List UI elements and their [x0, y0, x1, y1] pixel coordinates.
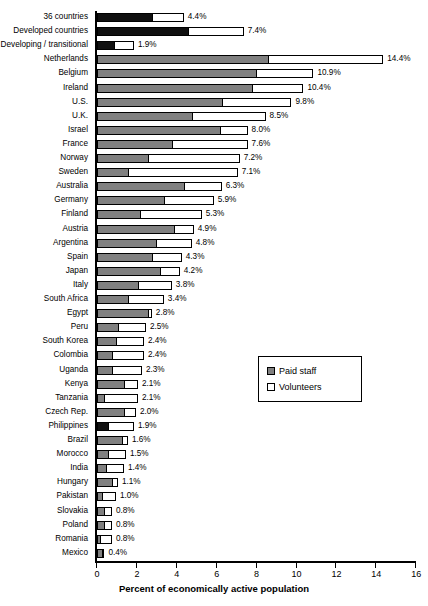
category-label: Egypt — [67, 308, 88, 318]
bar-segment-volunteers — [112, 478, 118, 487]
bar-segment-volunteers — [160, 267, 180, 276]
bar-value-label: 2.3% — [146, 365, 165, 375]
x-axis-tick — [415, 563, 416, 568]
x-axis-tick — [176, 563, 177, 568]
bar-segment-volunteers — [188, 27, 244, 36]
bar-value-label: 2.1% — [142, 379, 161, 389]
bar-segment-paid-staff — [97, 295, 129, 304]
bar-segment-paid-staff — [97, 27, 189, 36]
bar-segment-volunteers — [172, 140, 248, 149]
bar-segment-volunteers — [164, 196, 214, 205]
chart-row: Brazil1.6% — [0, 435, 428, 449]
bar-segment-volunteers — [222, 98, 292, 107]
legend-swatch-volunteers — [267, 383, 275, 391]
bar-segment-volunteers — [148, 154, 240, 163]
category-label: Sweden — [58, 167, 88, 177]
bar-segment-paid-staff — [97, 253, 153, 262]
category-label: South Korea — [42, 336, 88, 346]
category-label: Australia — [56, 181, 88, 191]
category-label: Pakistan — [57, 491, 88, 501]
chart-row: Finland5.3% — [0, 209, 428, 223]
chart-row: Netherlands14.4% — [0, 54, 428, 68]
bar-value-label: 7.4% — [248, 26, 267, 36]
bar-segment-volunteers — [116, 337, 144, 346]
category-label: Israel — [68, 125, 88, 135]
category-label: India — [70, 463, 88, 473]
x-axis-tick-label: 14 — [361, 569, 391, 579]
category-label: Belgium — [58, 68, 88, 78]
category-label: South Africa — [44, 294, 88, 304]
chart-row: Colombia2.4% — [0, 350, 428, 364]
bar-value-label: 4.4% — [188, 12, 207, 22]
bar-value-label: 7.2% — [244, 153, 263, 163]
legend-label-paid-staff: Paid staff — [279, 366, 316, 376]
bar-value-label: 7.6% — [252, 139, 271, 149]
category-label: France — [63, 139, 88, 149]
bar-segment-volunteers — [108, 450, 126, 459]
bar-value-label: 1.1% — [122, 477, 141, 487]
bar-segment-volunteers — [152, 13, 184, 22]
bar-value-label: 6.3% — [226, 181, 245, 191]
bar-segment-paid-staff — [97, 140, 173, 149]
chart-row: Japan4.2% — [0, 266, 428, 280]
chart-legend: Paid staff Volunteers — [258, 356, 362, 402]
bar-value-label: 8.5% — [270, 111, 289, 121]
bar-value-label: 1.9% — [138, 40, 157, 50]
x-axis-tick — [136, 563, 137, 568]
chart-row: Australia6.3% — [0, 181, 428, 195]
chart-row: Spain4.3% — [0, 252, 428, 266]
bar-segment-paid-staff — [97, 337, 117, 346]
chart-row: Pakistan1.0% — [0, 491, 428, 505]
bar-segment-paid-staff — [97, 281, 139, 290]
bar-value-label: 1.6% — [132, 435, 151, 445]
chart-row: U.S.9.8% — [0, 97, 428, 111]
bar-value-label: 0.8% — [116, 506, 135, 516]
x-axis-tick — [96, 563, 97, 568]
bar-value-label: 1.0% — [120, 491, 139, 501]
category-label: Finland — [61, 209, 88, 219]
chart-row: Mexico0.4% — [0, 548, 428, 562]
x-axis-tick-label: 4 — [162, 569, 192, 579]
bar-segment-volunteers — [138, 281, 172, 290]
bar-segment-paid-staff — [97, 309, 149, 318]
category-label: Hungary — [57, 477, 88, 487]
bar-value-label: 0.4% — [108, 548, 127, 558]
legend-item-paid-staff: Paid staff — [267, 363, 361, 379]
bar-value-label: 2.8% — [156, 308, 175, 318]
bar-segment-volunteers — [156, 239, 192, 248]
chart-row: Austria4.9% — [0, 224, 428, 238]
x-axis-tick — [216, 563, 217, 568]
legend-item-volunteers: Volunteers — [267, 379, 361, 395]
chart-row: Czech Rep.2.0% — [0, 407, 428, 421]
x-axis-tick-label: 8 — [242, 569, 272, 579]
chart-container: 024681012141636 countries4.4%Developed c… — [0, 0, 428, 606]
x-axis-tick-label: 16 — [401, 569, 428, 579]
bar-value-label: 1.9% — [138, 421, 157, 431]
category-label: Japan — [66, 266, 88, 276]
category-label: Philippines — [48, 421, 88, 431]
chart-row: Norway7.2% — [0, 153, 428, 167]
bar-value-label: 4.8% — [196, 238, 215, 248]
bar-value-label: 5.9% — [218, 195, 237, 205]
bar-segment-volunteers — [124, 408, 136, 417]
chart-row: Hungary1.1% — [0, 477, 428, 491]
bar-segment-volunteers — [102, 492, 116, 501]
bar-value-label: 4.3% — [186, 252, 205, 262]
category-label: Spain — [67, 252, 88, 262]
bar-segment-paid-staff — [97, 98, 223, 107]
bar-segment-volunteers — [152, 253, 182, 262]
category-label: Argentina — [53, 238, 88, 248]
bar-value-label: 5.3% — [206, 209, 225, 219]
bar-segment-paid-staff — [97, 154, 149, 163]
bar-segment-volunteers — [112, 366, 142, 375]
category-label: Developed countries — [13, 26, 88, 36]
category-label: Ireland — [63, 83, 88, 93]
bar-segment-volunteers — [104, 521, 112, 530]
bar-value-label: 2.4% — [148, 336, 167, 346]
bar-segment-volunteers — [118, 323, 146, 332]
category-label: Brazil — [68, 435, 88, 445]
chart-row: Uganda2.3% — [0, 365, 428, 379]
bar-segment-volunteers — [220, 126, 248, 135]
bar-segment-volunteers — [112, 351, 144, 360]
x-axis-tick — [375, 563, 376, 568]
